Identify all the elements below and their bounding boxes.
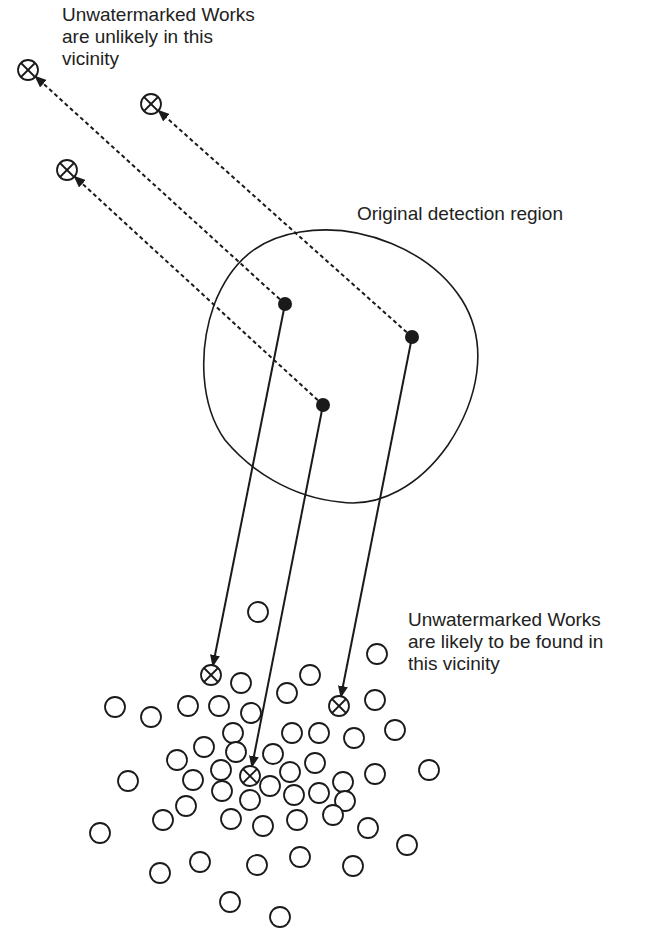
- unwatermarked-work-circle-icon: [280, 762, 300, 782]
- unwatermarked-work-circle-icon: [282, 723, 302, 743]
- unwatermarked-work-circle-icon: [287, 810, 307, 830]
- unwatermarked-work-circle-icon: [343, 856, 363, 876]
- unwatermarked-work-circle-icon: [183, 770, 203, 790]
- crossed-circle-icon: [201, 665, 221, 685]
- unwatermarked-work-circle-icon: [153, 810, 173, 830]
- unwatermarked-work-circle-icon: [212, 781, 232, 801]
- dashed-arrow: [75, 177, 323, 405]
- unwatermarked-work-circle-icon: [305, 753, 325, 773]
- detected-points: [278, 297, 419, 412]
- unwatermarked-work-circle-icon: [290, 847, 310, 867]
- unwatermarked-work-circle-icon: [419, 760, 439, 780]
- unwatermarked-work-circle-icon: [167, 750, 187, 770]
- unwatermarked-work-circle-icon: [220, 892, 240, 912]
- unwatermarked-work-circle-icon: [397, 835, 417, 855]
- unwatermarked-work-circle-icon: [367, 644, 387, 664]
- crossed-circle-icon: [329, 696, 349, 716]
- unwatermarked-work-circle-icon: [150, 863, 170, 883]
- unwatermarked-work-circle-icon: [248, 602, 268, 622]
- unwatermarked-work-circle-icon: [365, 764, 385, 784]
- unwatermarked-work-circle-icon: [365, 690, 385, 710]
- unwatermarked-works-cluster: [90, 602, 439, 927]
- unwatermarked-work-circle-icon: [178, 696, 198, 716]
- watermark-detection-diagram: [0, 0, 651, 944]
- unwatermarked-work-circle-icon: [118, 771, 138, 791]
- label-original-detection-region: Original detection region: [357, 203, 563, 225]
- original-detection-region: [204, 230, 478, 503]
- unwatermarked-work-circle-icon: [358, 818, 378, 838]
- detected-point-dot-icon: [278, 297, 292, 311]
- unwatermarked-work-circle-icon: [300, 665, 320, 685]
- solid-arrow: [252, 405, 323, 766]
- crossed-circle-icon: [18, 60, 38, 80]
- unwatermarked-work-circle-icon: [270, 907, 290, 927]
- detected-point-dot-icon: [405, 330, 419, 344]
- unwatermarked-work-circle-icon: [385, 720, 405, 740]
- unwatermarked-work-circle-icon: [263, 744, 283, 764]
- unwatermarked-work-circle-icon: [105, 697, 125, 717]
- unwatermarked-work-circle-icon: [231, 673, 251, 693]
- unwatermarked-work-circle-icon: [223, 723, 243, 743]
- unwatermarked-work-circle-icon: [309, 783, 329, 803]
- crossed-circle-icon: [141, 94, 161, 114]
- unwatermarked-work-circle-icon: [90, 823, 110, 843]
- unwatermarked-work-circle-icon: [333, 772, 353, 792]
- crossed-circle-icon: [57, 160, 77, 180]
- unwatermarked-work-circle-icon: [221, 809, 241, 829]
- unwatermarked-work-circle-icon: [344, 728, 364, 748]
- unwatermarked-work-circle-icon: [190, 852, 210, 872]
- detected-point-dot-icon: [316, 398, 330, 412]
- unwatermarked-work-circle-icon: [194, 737, 214, 757]
- unwatermarked-work-circle-icon: [226, 742, 246, 762]
- unwatermarked-work-circle-icon: [247, 855, 267, 875]
- unwatermarked-work-circle-icon: [241, 703, 261, 723]
- unwatermarked-work-circle-icon: [309, 723, 329, 743]
- label-unlikely-vicinity: Unwatermarked Works are unlikely in this…: [62, 4, 255, 70]
- unwatermarked-work-circle-icon: [209, 696, 229, 716]
- crossed-circle-icon: [240, 766, 260, 786]
- unwatermarked-work-circle-icon: [253, 816, 273, 836]
- unwatermarked-work-circle-icon: [176, 796, 196, 816]
- label-likely-vicinity: Unwatermarked Works are likely to be fou…: [408, 609, 603, 675]
- dashed-arrows: [36, 77, 412, 405]
- unwatermarked-work-circle-icon: [141, 707, 161, 727]
- solid-arrow: [341, 337, 412, 696]
- unwatermarked-work-circle-icon: [284, 785, 304, 805]
- unwatermarked-work-circle-icon: [277, 683, 297, 703]
- unwatermarked-work-circle-icon: [211, 760, 231, 780]
- unwatermarked-work-circle-icon: [240, 790, 260, 810]
- unwatermarked-work-circle-icon: [323, 805, 343, 825]
- unwatermarked-work-circle-icon: [260, 776, 280, 796]
